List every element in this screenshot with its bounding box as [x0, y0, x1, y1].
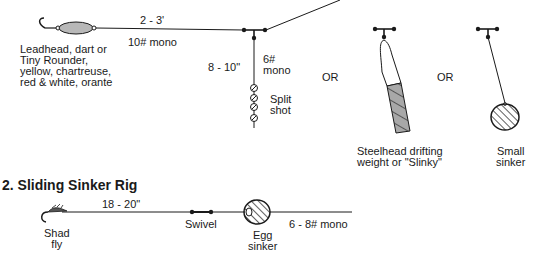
lure-label-line: red & white, orante — [20, 77, 112, 88]
small-sinker-label-line: sinker — [496, 157, 525, 168]
split-shot-label: Split shot — [270, 94, 291, 116]
rig2-main-line-label: 6 - 8# mono — [289, 219, 348, 230]
leadhead-lure — [40, 18, 96, 34]
egg-sinker-label-line: sinker — [248, 241, 277, 252]
lure-label: Leadhead, dart or Tiny Rounder, yellow, … — [20, 44, 112, 88]
egg-sinker — [244, 200, 270, 224]
small-sinker — [476, 27, 519, 130]
leader-line-label: 10# mono — [128, 37, 177, 48]
or-label-1: OR — [322, 72, 339, 83]
leader-line — [96, 28, 244, 30]
shad-fly — [42, 204, 67, 222]
rig2-title: 2. Sliding Sinker Rig — [2, 177, 137, 193]
swivel-label: Swivel — [185, 219, 217, 230]
leader-length-label: 2 - 3' — [140, 15, 164, 26]
slinky-label: Steelhead drifting weight or "Slinky" — [357, 146, 443, 168]
slinky-weight — [373, 27, 410, 133]
fly-label: Shad fly — [44, 228, 70, 250]
swivel — [190, 210, 213, 214]
rig2-leader-length-label: 18 - 20" — [102, 199, 140, 210]
dropper-line-label-line: mono — [263, 65, 291, 76]
dropper-length-label: 8 - 10" — [208, 62, 240, 73]
main-line — [266, 0, 340, 30]
dropper-line-label: 6# mono — [263, 54, 291, 76]
or-label-2: OR — [437, 72, 454, 83]
split-shot — [251, 85, 258, 122]
split-shot-label-line: shot — [270, 105, 291, 116]
slinky-label-line: weight or "Slinky" — [357, 157, 443, 168]
egg-sinker-label: Egg sinker — [248, 230, 277, 252]
rig-diagram — [0, 0, 534, 263]
small-sinker-label: Small sinker — [496, 146, 525, 168]
fly-label-line: fly — [44, 239, 70, 250]
